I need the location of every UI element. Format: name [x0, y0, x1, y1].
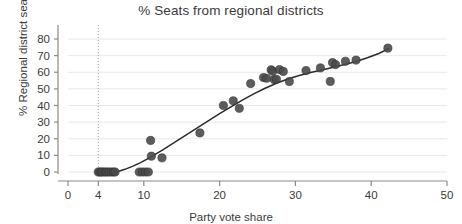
data-points [94, 44, 392, 176]
svg-text:60: 60 [37, 66, 50, 78]
data-point [384, 44, 392, 52]
data-point [279, 67, 287, 75]
data-point [352, 56, 360, 64]
data-point [235, 104, 243, 112]
svg-text:50: 50 [441, 189, 454, 201]
chart-container: % Seats from regional districts % Region… [0, 0, 462, 224]
svg-text:10: 10 [37, 149, 50, 161]
svg-text:80: 80 [37, 33, 50, 45]
data-point [331, 61, 339, 69]
svg-text:0: 0 [65, 189, 71, 201]
data-point [219, 101, 227, 109]
svg-text:70: 70 [37, 50, 50, 62]
data-point [147, 152, 155, 160]
data-point [262, 74, 270, 82]
data-point [285, 77, 293, 85]
svg-text:40: 40 [365, 189, 378, 201]
data-point [302, 66, 310, 74]
data-point [272, 75, 280, 83]
data-point [196, 129, 204, 137]
fit-line [98, 49, 388, 173]
data-point [158, 154, 166, 162]
svg-text:30: 30 [289, 189, 302, 201]
svg-text:4: 4 [95, 189, 102, 201]
x-axis-ticks: 041020304050 [65, 181, 454, 201]
svg-text:20: 20 [37, 133, 50, 145]
data-point [147, 136, 155, 144]
svg-text:50: 50 [37, 83, 50, 95]
data-point [247, 79, 255, 87]
svg-text:30: 30 [37, 116, 50, 128]
y-axis-ticks: 01020304050607080 [37, 33, 58, 178]
data-point [326, 77, 334, 85]
data-point [341, 57, 349, 65]
svg-text:20: 20 [213, 189, 226, 201]
svg-text:0: 0 [44, 166, 50, 178]
data-point [111, 168, 119, 176]
data-point [229, 97, 237, 105]
svg-text:10: 10 [137, 189, 150, 201]
scatter-plot: 01020304050607080 041020304050 [0, 0, 462, 224]
data-point [144, 168, 152, 176]
svg-text:40: 40 [37, 100, 50, 112]
gridlines [68, 39, 447, 172]
data-point [316, 64, 324, 72]
